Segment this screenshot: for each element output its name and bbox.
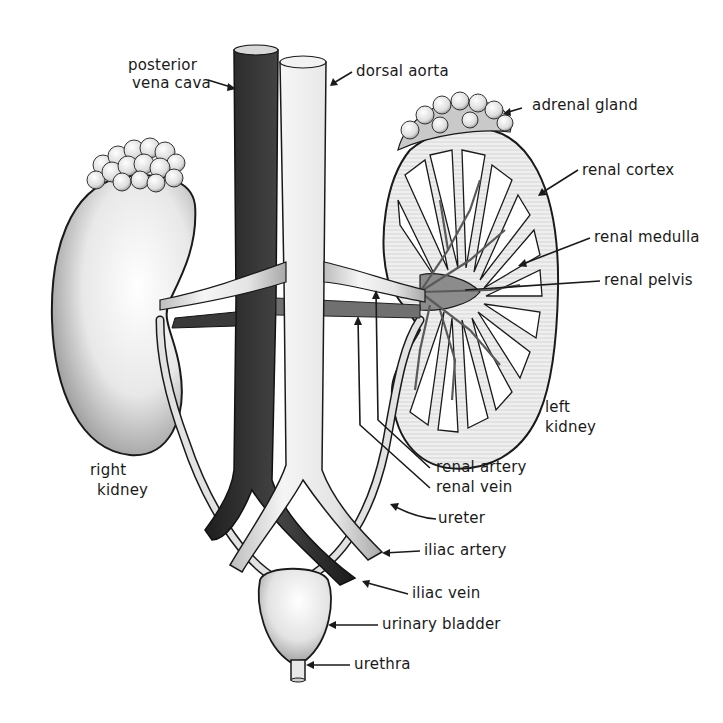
label-dorsal-aorta: dorsal aorta — [356, 62, 449, 80]
label-right-kidney-line2: kidney — [97, 481, 148, 499]
label-posterior-vena-cava-line2: vena cava — [132, 74, 211, 92]
label-urinary-bladder: urinary bladder — [382, 615, 501, 633]
label-ureter: ureter — [438, 509, 486, 527]
urethra — [291, 660, 305, 682]
label-left-kidney-line2: kidney — [545, 418, 596, 436]
label-adrenal-gland: adrenal gland — [532, 96, 638, 114]
label-urethra: urethra — [354, 655, 411, 673]
label-left-kidney-line1: left — [545, 398, 570, 416]
label-posterior-vena-cava-line1: posterior — [128, 56, 198, 74]
labels: posterior vena cava dorsal aorta adrenal… — [90, 56, 700, 673]
label-renal-pelvis: renal pelvis — [604, 271, 693, 289]
label-right-kidney-line1: right — [90, 461, 126, 479]
label-iliac-vein: iliac vein — [412, 584, 481, 602]
right-adrenal-gland — [87, 138, 185, 192]
label-renal-artery: renal artery — [436, 458, 527, 476]
urinary-bladder — [259, 569, 331, 662]
label-renal-medulla: renal medulla — [594, 228, 700, 246]
label-renal-vein: renal vein — [436, 478, 512, 496]
label-iliac-artery: iliac artery — [424, 541, 507, 559]
label-renal-cortex: renal cortex — [582, 161, 674, 179]
urinary-system-diagram: posterior vena cava dorsal aorta adrenal… — [0, 0, 723, 723]
